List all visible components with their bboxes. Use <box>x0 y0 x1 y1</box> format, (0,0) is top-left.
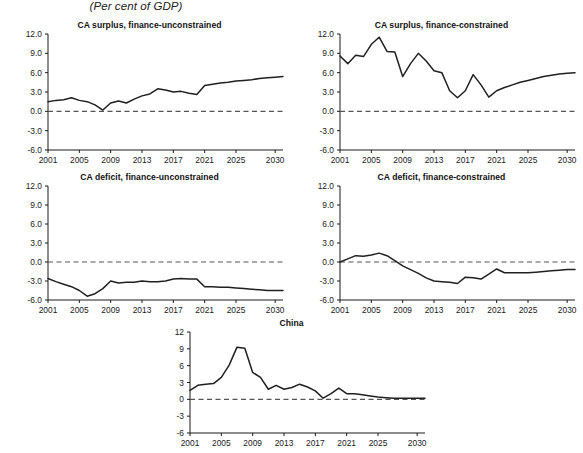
y-tick-label: 3.0 <box>30 238 42 248</box>
chart-svg: 12.09.06.03.00.0-3.0-6.02001200520092013… <box>8 182 291 320</box>
figure-panel-grid: (Per cent of GDP) CA surplus, finance-un… <box>0 0 583 453</box>
y-tick-label: 3.0 <box>30 87 42 97</box>
chart-svg: 12.09.06.03.00.0-3.0-6.02001200520092013… <box>8 30 291 170</box>
x-tick-label: 2030 <box>558 155 577 165</box>
x-tick-label: 2001 <box>39 305 58 315</box>
panel-ca-deficit-finance-constrained: CA deficit, finance-constrained 12.09.06… <box>300 172 583 320</box>
x-tick-label: 2013 <box>275 438 294 448</box>
y-tick-label: 9.0 <box>30 48 42 58</box>
series-line <box>48 77 283 111</box>
y-tick-label: 9 <box>179 344 184 354</box>
panel-ca-surplus-finance-constrained: CA surplus, finance-constrained 12.09.06… <box>300 20 583 170</box>
y-tick-label: 6 <box>179 361 184 371</box>
x-tick-label: 2005 <box>70 305 89 315</box>
x-tick-label: 2001 <box>181 438 200 448</box>
panel-title: CA surplus, finance-constrained <box>300 20 583 30</box>
x-tick-label: 2021 <box>195 155 214 165</box>
y-tick-label: -3.0 <box>320 276 335 286</box>
series-line <box>340 253 575 283</box>
y-tick-label: 12.0 <box>26 182 43 191</box>
x-tick-label: 2005 <box>362 155 381 165</box>
x-tick-label: 2021 <box>487 155 506 165</box>
y-tick-label: 9.0 <box>322 200 334 210</box>
y-tick-label: -3 <box>177 411 185 421</box>
y-tick-label: 0.0 <box>30 106 42 116</box>
x-tick-label: 2025 <box>369 438 388 448</box>
panel-ca-deficit-finance-unconstrained: CA deficit, finance-unconstrained 12.09.… <box>8 172 291 320</box>
chart-svg: 129630-3-6200120052009201320172021202520… <box>150 328 433 453</box>
x-tick-label: 2025 <box>227 305 246 315</box>
x-tick-label: 2013 <box>425 155 444 165</box>
plot-area: 12.09.06.03.00.0-3.0-6.02001200520092013… <box>8 182 291 320</box>
y-tick-label: -6.0 <box>28 145 43 155</box>
y-tick-label: 0 <box>179 394 184 404</box>
y-tick-label: -6.0 <box>320 145 335 155</box>
x-tick-label: 2030 <box>266 305 285 315</box>
y-tick-label: 12.0 <box>318 182 335 191</box>
x-tick-label: 2017 <box>306 438 325 448</box>
panel-china: China 129630-3-6200120052009201320172021… <box>150 318 433 453</box>
x-tick-label: 2021 <box>195 305 214 315</box>
chart-svg: 12.09.06.03.00.0-3.0-6.02001200520092013… <box>300 182 583 320</box>
plot-area: 12.09.06.03.00.0-3.0-6.02001200520092013… <box>8 30 291 170</box>
x-tick-label: 2001 <box>331 305 350 315</box>
y-tick-label: -6 <box>177 428 185 438</box>
x-tick-label: 2021 <box>487 305 506 315</box>
x-tick-label: 2025 <box>227 155 246 165</box>
y-tick-label: 0.0 <box>30 257 42 267</box>
plot-area: 129630-3-6200120052009201320172021202520… <box>150 328 433 453</box>
y-tick-label: 0.0 <box>322 257 334 267</box>
y-tick-label: 12.0 <box>26 30 43 39</box>
x-tick-label: 2013 <box>133 155 152 165</box>
y-tick-label: 9.0 <box>322 48 334 58</box>
x-tick-label: 2009 <box>101 155 120 165</box>
y-tick-label: 6.0 <box>322 68 334 78</box>
chart-svg: 12.09.06.03.00.0-3.0-6.02001200520092013… <box>300 30 583 170</box>
plot-area: 12.09.06.03.00.0-3.0-6.02001200520092013… <box>300 30 583 170</box>
x-tick-label: 2017 <box>456 155 475 165</box>
x-tick-label: 2021 <box>337 438 356 448</box>
x-tick-label: 2013 <box>133 305 152 315</box>
x-tick-label: 2005 <box>212 438 231 448</box>
x-tick-label: 2017 <box>164 305 183 315</box>
panel-ca-surplus-finance-unconstrained: CA surplus, finance-unconstrained 12.09.… <box>8 20 291 170</box>
panel-title: China <box>150 318 433 328</box>
x-tick-label: 2009 <box>393 155 412 165</box>
y-tick-label: 0.0 <box>322 106 334 116</box>
x-tick-label: 2001 <box>39 155 58 165</box>
panel-title: CA deficit, finance-constrained <box>300 172 583 182</box>
plot-area: 12.09.06.03.00.0-3.0-6.02001200520092013… <box>300 182 583 320</box>
y-tick-label: -6.0 <box>320 295 335 305</box>
x-tick-label: 2017 <box>456 305 475 315</box>
figure-title: (Per cent of GDP) <box>56 0 216 12</box>
y-tick-label: 12.0 <box>318 30 335 39</box>
y-tick-label: 3 <box>179 378 184 388</box>
y-tick-label: 6.0 <box>30 219 42 229</box>
y-tick-label: -3.0 <box>28 276 43 286</box>
x-tick-label: 2005 <box>70 155 89 165</box>
y-tick-label: 12 <box>175 328 185 337</box>
y-tick-label: 6.0 <box>322 219 334 229</box>
x-tick-label: 2005 <box>362 305 381 315</box>
series-line <box>48 278 283 296</box>
x-tick-label: 2009 <box>243 438 262 448</box>
y-tick-label: -6.0 <box>28 295 43 305</box>
y-tick-label: 9.0 <box>30 200 42 210</box>
x-tick-label: 2030 <box>558 305 577 315</box>
x-tick-label: 2030 <box>408 438 427 448</box>
x-tick-label: 2017 <box>164 155 183 165</box>
panel-title: CA deficit, finance-unconstrained <box>8 172 291 182</box>
x-tick-label: 2025 <box>519 305 538 315</box>
x-tick-label: 2013 <box>425 305 444 315</box>
series-line <box>190 347 425 398</box>
y-tick-label: 3.0 <box>322 87 334 97</box>
series-line <box>340 37 575 98</box>
y-tick-label: 6.0 <box>30 68 42 78</box>
x-tick-label: 2009 <box>393 305 412 315</box>
x-tick-label: 2001 <box>331 155 350 165</box>
x-tick-label: 2009 <box>101 305 120 315</box>
y-tick-label: 3.0 <box>322 238 334 248</box>
x-tick-label: 2030 <box>266 155 285 165</box>
x-tick-label: 2025 <box>519 155 538 165</box>
y-tick-label: -3.0 <box>320 126 335 136</box>
